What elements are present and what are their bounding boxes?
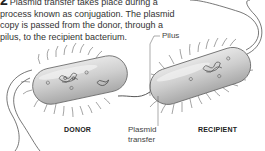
plasmid-transfer-label-line1: Plasmid — [128, 125, 156, 135]
recipient-label: RECIPIENT — [198, 126, 237, 133]
plasmid-transfer-label-line2: transfer — [128, 135, 156, 145]
connecting-pilus — [118, 92, 150, 97]
plasmid-transfer-label: Plasmid transfer — [128, 125, 156, 145]
recipient-cell — [145, 43, 255, 109]
donor-label: DONOR — [64, 126, 91, 133]
donor-cell — [29, 52, 130, 107]
recipient-flagella — [190, 0, 262, 56]
pilus-label: Pilus — [162, 31, 179, 41]
